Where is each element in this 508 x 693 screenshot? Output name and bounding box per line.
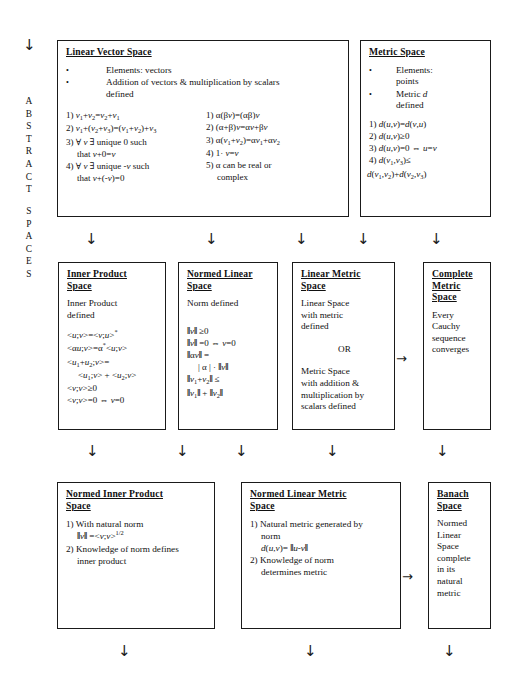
arrow-down-12: ↓ <box>304 644 316 659</box>
lvs-axiom-a3-cont: that v+0=v <box>66 148 202 160</box>
lms-or: OR <box>301 344 388 356</box>
ms-axiom-2: 2) d(u,v)≥0 <box>369 130 484 142</box>
ips-subtitle: Inner Productdefined <box>67 298 159 321</box>
nls-subtitle: Norm defined <box>187 298 271 310</box>
nlms-item-1-formula: d(u,v)= ‖u-v‖ <box>250 542 394 554</box>
nls-axiom-4: ‖v1+v2‖ ≤ <box>187 373 271 386</box>
bullet-dot-icon <box>66 65 106 77</box>
metric-space-title: Metric Space <box>369 46 484 58</box>
ms-axiom-3: 3) d(u,v)=0 ⇔ u=v <box>369 142 484 154</box>
arrow-right-nlms-to-banach: → <box>402 570 413 583</box>
lvs-axiom-a3: 3) ∀ v ∃ unique 0 such <box>66 136 202 148</box>
lvs-axiom-columns: 1) v1+v2=v2+v1 2) v1+(v2+v3)=(v1+v2)+v3 … <box>66 109 342 184</box>
arrow-down-7: ↓ <box>176 444 188 459</box>
normed-inner-product-space-title: Normed Inner ProductSpace <box>66 488 208 511</box>
lvs-axiom-b3: 3) α(v1+v2)=αv1+αv2 <box>206 134 342 147</box>
nips-item-1-formula: ‖v‖ =<v;v>1/2 <box>66 530 208 543</box>
arrow-down-6: ↓ <box>86 444 98 459</box>
lvs-bullet-1: Elements: vectors <box>66 65 342 77</box>
box-metric-space: Metric Space Elements:points Metric ddef… <box>360 40 491 217</box>
lvs-axiom-b4: 4) 1· v=v <box>206 147 342 159</box>
side-label-spaces: SPACES <box>21 205 37 281</box>
nls-axioms: ‖v‖ ≥0 ‖v‖ =0 ⇔ v=0 ‖αv‖ = | α | · ‖v‖ ‖… <box>187 325 271 400</box>
lvs-axiom-a2: 2) v1+(v2+v3)=(v1+v2)+v3 <box>66 122 202 135</box>
lms-line2: Metric Spacewith addition &multiplicatio… <box>301 366 388 412</box>
lvs-axiom-a4-cont: that v+(-v)=0 <box>66 172 202 184</box>
box-complete-metric-space: CompleteMetricSpace EveryCauchysequencec… <box>423 262 491 430</box>
arrow-right-linear-metric-to-complete: → <box>396 352 407 365</box>
ms-bullet-2: Metric ddefined <box>369 89 484 112</box>
box-normed-inner-product-space: Normed Inner ProductSpace 1) With natura… <box>57 482 215 629</box>
bullet-dot-icon <box>369 89 396 112</box>
nls-axiom-1: ‖v‖ ≥0 <box>187 325 271 337</box>
nips-item-2-cont: inner product <box>66 555 208 567</box>
ips-axiom-1: <u;v>=<v;u>* <box>67 329 159 342</box>
lvs-bullet-1-text: Elements: vectors <box>106 65 342 77</box>
side-top-arrow-icon: ↓ <box>23 38 35 53</box>
ips-axiom-5: <v;v>=0 ⇔ v=0 <box>67 394 159 406</box>
arrow-down-3: ↓ <box>295 232 307 247</box>
ms-axioms: 1) d(u,v)=d(v,u) 2) d(u,v)≥0 3) d(u,v)=0… <box>369 118 484 181</box>
lvs-axiom-a1: 1) v1+v2=v2+v1 <box>66 109 202 122</box>
box-normed-linear-metric-space: Normed Linear MetricSpace 1) Natural met… <box>241 482 401 629</box>
box-linear-metric-space: Linear MetricSpace Linear Spacewith metr… <box>292 262 395 430</box>
ms-bullet-1-text: Elements:points <box>396 65 484 88</box>
arrow-down-2: ↓ <box>205 232 217 247</box>
ips-axiom-2: <αu;v>=α*<u;v> <box>67 342 159 355</box>
lvs-axiom-a4: 4) ∀ v ∃ unique -v such <box>66 160 202 172</box>
normed-linear-metric-space-title: Normed Linear MetricSpace <box>250 488 394 511</box>
arrow-down-1: ↓ <box>85 232 97 247</box>
arrow-down-13: ↓ <box>443 644 455 659</box>
ms-bullet-1: Elements:points <box>369 65 484 88</box>
ips-axiom-3: <u1+u2;v>= <box>67 356 159 369</box>
banach-body: NormedLinearSpacecompletein itsnaturalme… <box>437 518 484 599</box>
arrow-down-8: ↓ <box>235 444 247 459</box>
box-normed-linear-space: Normed LinearSpace Norm defined ‖v‖ ≥0 ‖… <box>178 262 278 430</box>
ms-axiom-4-cont: d(v1,v2)+d(v2,v3) <box>367 168 484 181</box>
banach-space-title: BanachSpace <box>437 488 484 511</box>
lvs-axioms-left: 1) v1+v2=v2+v1 2) v1+(v2+v3)=(v1+v2)+v3 … <box>66 109 202 184</box>
box-linear-vector-space: Linear Vector Space Elements: vectors Ad… <box>57 40 349 217</box>
nls-axiom-3-cont: | α | · ‖v‖ <box>187 361 271 373</box>
arrow-down-4: ↓ <box>357 232 369 247</box>
bullet-dot-icon <box>369 65 396 88</box>
box-inner-product-space: Inner ProductSpace Inner Productdefined … <box>58 262 166 430</box>
arrow-down-5: ↓ <box>430 232 442 247</box>
diagram-canvas: ↓ ABSTRACT SPACES Linear Vector Space El… <box>0 0 508 693</box>
nlms-item-1-cont: norm <box>250 530 394 542</box>
nls-axiom-3: ‖αv‖ = <box>187 349 271 361</box>
bullet-dot-icon <box>66 77 106 100</box>
ips-axiom-3-cont: <u1;v> + <u2;v> <box>67 369 159 382</box>
nls-axiom-2: ‖v‖ =0 ⇔ v=0 <box>187 337 271 349</box>
linear-metric-space-title: Linear MetricSpace <box>301 268 388 291</box>
ms-bullet-2-text: Metric ddefined <box>396 89 484 112</box>
cms-body: EveryCauchysequenceconverges <box>432 310 484 356</box>
ms-axiom-1: 1) d(u,v)=d(v,u) <box>369 118 484 130</box>
nlms-item-2: 2) Knowledge of norm <box>250 554 394 566</box>
linear-vector-space-title: Linear Vector Space <box>66 46 342 58</box>
side-label-abstract: ABSTRACT <box>21 95 37 196</box>
lvs-axiom-b1: 1) α(βv)=(αβ)v <box>206 109 342 121</box>
normed-linear-space-title: Normed LinearSpace <box>187 268 271 291</box>
nips-item-2: 2) Knowledge of norm defines <box>66 543 208 555</box>
nips-item-1: 1) With natural norm <box>66 518 208 530</box>
lvs-axiom-b5: 5) α can be real or <box>206 159 342 171</box>
ms-axiom-4: 4) d(v1,v3)≤ <box>369 154 484 167</box>
lvs-axiom-b2: 2) (α+β)v=αv+βv <box>206 121 342 133</box>
lms-line1: Linear Spacewith metricdefined <box>301 298 388 333</box>
arrow-down-11: ↓ <box>118 644 130 659</box>
complete-metric-space-title: CompleteMetricSpace <box>432 268 484 303</box>
lvs-axiom-b5-cont: complex <box>206 171 342 183</box>
nls-axiom-4-cont: ‖v1‖ + ‖v2‖ <box>187 387 271 400</box>
lvs-bullet-2: Addition of vectors & multiplication by … <box>66 77 342 100</box>
arrow-down-9: ↓ <box>326 444 338 459</box>
lvs-bullet-2-text: Addition of vectors & multiplication by … <box>106 77 342 100</box>
ips-axiom-4: <v;v>≥0 <box>67 382 159 394</box>
ips-axioms: <u;v>=<v;u>* <αu;v>=α*<u;v> <u1+u2;v>= <… <box>67 329 159 406</box>
nlms-item-2-cont: determines metric <box>250 566 394 578</box>
arrow-down-10: ↓ <box>436 444 448 459</box>
inner-product-space-title: Inner ProductSpace <box>67 268 159 291</box>
nlms-item-1: 1) Natural metric generated by <box>250 518 394 530</box>
box-banach-space: BanachSpace NormedLinearSpacecompletein … <box>428 482 491 629</box>
lvs-axioms-right: 1) α(βv)=(αβ)v 2) (α+β)v=αv+βv 3) α(v1+v… <box>206 109 342 184</box>
